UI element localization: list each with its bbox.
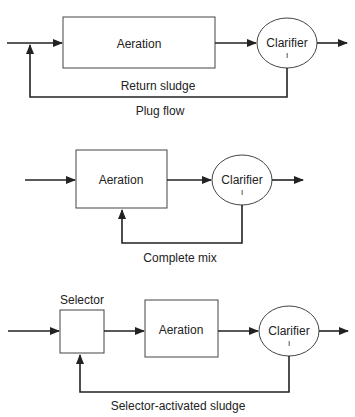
selector-activated-sludge-diagram: Selector Aeration Clarifier I Selector-a… [8,293,348,413]
complete-mix-diagram: Aeration Clarifier I Complete mix [25,150,303,265]
return-sludge-line [122,205,242,243]
clarifier-mark: I [286,51,288,60]
return-sludge-label: Return sludge [121,79,196,93]
selector-label: Selector [60,293,104,307]
selector-tank [60,310,104,353]
complete-mix-caption: Complete mix [143,251,216,265]
aeration-label: Aeration [99,173,144,187]
clarifier-label: Clarifier [221,173,262,187]
clarifier-mark: I [241,188,243,197]
plug-flow-diagram: Aeration Clarifier I Return sludge Plug … [7,17,347,118]
return-sludge-line [80,355,289,392]
process-diagrams: Aeration Clarifier I Return sludge Plug … [0,0,355,417]
clarifier-label: Clarifier [268,324,309,338]
clarifier-label: Clarifier [266,36,307,50]
selector-activated-sludge-caption: Selector-activated sludge [111,399,246,413]
aeration-label: Aeration [159,323,204,337]
aeration-label: Aeration [117,37,162,51]
clarifier-mark: I [288,339,290,348]
plug-flow-caption: Plug flow [136,104,185,118]
